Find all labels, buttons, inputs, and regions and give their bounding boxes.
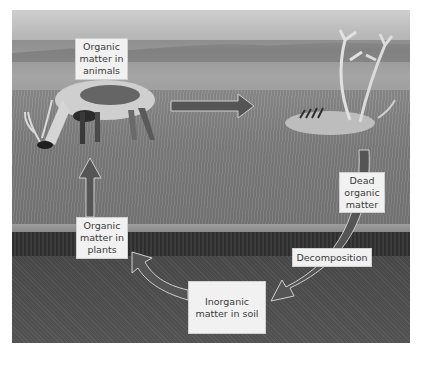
node-plants-line2: matter in — [80, 232, 124, 244]
node-soil-line1: Inorganic — [195, 296, 258, 308]
process-label-decomposition: Decomposition — [292, 248, 372, 267]
dead-caribou-icon — [285, 30, 395, 135]
arrow-animals-to-dead — [171, 94, 254, 118]
node-organic-matter-in-plants: Organic matter in plants — [76, 217, 128, 259]
node-plants-line1: Organic — [80, 220, 124, 232]
node-dead-line1: Dead — [344, 175, 379, 187]
node-animals-line1: Organic — [80, 41, 124, 53]
living-caribou-icon — [25, 80, 155, 149]
decomposition-text: Decomposition — [296, 252, 367, 264]
node-dead-organic-matter: Dead organic matter — [339, 172, 385, 213]
node-plants-line3: plants — [80, 244, 124, 256]
node-dead-line2: organic — [344, 187, 379, 199]
arrow-soil-to-plants — [132, 252, 188, 300]
arrow-plants-to-animals — [79, 158, 101, 217]
node-dead-line3: matter — [344, 199, 379, 211]
node-animals-line2: matter in — [80, 53, 124, 65]
node-soil-line2: matter in soil — [195, 308, 258, 320]
node-organic-matter-in-animals: Organic matter in animals — [75, 38, 128, 80]
node-inorganic-matter-in-soil: Inorganic matter in soil — [188, 281, 266, 334]
node-animals-line3: animals — [80, 65, 124, 77]
